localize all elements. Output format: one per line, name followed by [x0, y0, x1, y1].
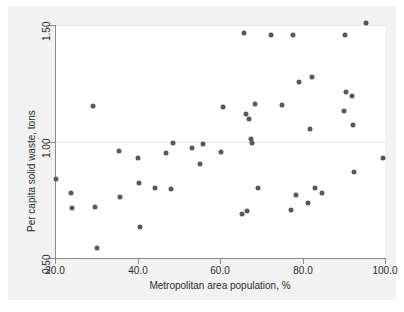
x-axis-tick — [138, 259, 139, 264]
data-point — [350, 122, 355, 127]
data-point — [170, 141, 175, 146]
x-axis-tick-label: 80.0 — [293, 265, 312, 276]
data-point — [296, 80, 301, 85]
data-point — [312, 186, 317, 191]
x-axis-tick-label: 100.0 — [372, 265, 397, 276]
data-point — [136, 181, 141, 186]
data-point — [68, 191, 73, 196]
data-point — [168, 187, 173, 192]
data-point — [241, 30, 246, 35]
data-point — [164, 150, 169, 155]
x-axis-tick-label: 20.0 — [45, 265, 64, 276]
y-axis-tick-label: 1.50 — [41, 22, 52, 41]
data-point — [310, 75, 315, 80]
x-axis-title: Metropolitan area population, % — [55, 280, 385, 291]
data-point — [289, 208, 294, 213]
data-point — [116, 148, 121, 153]
data-point — [305, 200, 310, 205]
x-axis-tick — [385, 259, 386, 264]
data-point — [137, 224, 142, 229]
x-axis-tick — [220, 259, 221, 264]
y-axis-line — [55, 25, 56, 259]
data-point — [190, 146, 195, 151]
data-point — [201, 141, 206, 146]
data-point — [90, 103, 95, 108]
data-point — [245, 208, 250, 213]
data-point — [94, 246, 99, 251]
data-point — [197, 161, 202, 166]
data-point — [221, 105, 226, 110]
data-point — [243, 112, 248, 117]
data-point — [53, 177, 58, 182]
x-axis-tick — [303, 259, 304, 264]
data-point — [291, 33, 296, 38]
data-point — [252, 102, 257, 107]
x-axis-tick-label: 60.0 — [210, 265, 229, 276]
data-point — [294, 193, 299, 198]
data-point — [70, 206, 75, 211]
y-axis-title: Per capita solid waste, tons — [26, 110, 37, 232]
data-point — [153, 186, 158, 191]
data-point — [343, 33, 348, 38]
gridline-y — [55, 142, 385, 143]
data-point — [319, 191, 324, 196]
gridline-y — [55, 25, 385, 26]
data-point — [136, 156, 141, 161]
data-point — [239, 212, 244, 217]
data-point — [380, 155, 385, 160]
data-point — [118, 195, 123, 200]
data-point — [249, 140, 254, 145]
data-point — [349, 93, 354, 98]
data-point — [219, 150, 224, 155]
data-point — [307, 126, 312, 131]
data-point — [280, 103, 285, 108]
data-point — [363, 20, 368, 25]
data-point — [344, 89, 349, 94]
x-axis-tick — [55, 259, 56, 264]
x-axis-tick-label: 40.0 — [128, 265, 147, 276]
data-point — [269, 33, 274, 38]
data-point — [92, 205, 97, 210]
data-point — [247, 117, 252, 122]
data-point — [342, 109, 347, 114]
y-axis-tick-label: 1.00 — [41, 139, 52, 158]
data-point — [255, 186, 260, 191]
data-point — [351, 169, 356, 174]
scatter-plot-figure: 0.501.001.50 20.040.060.080.0100.0 Per c… — [0, 0, 404, 312]
